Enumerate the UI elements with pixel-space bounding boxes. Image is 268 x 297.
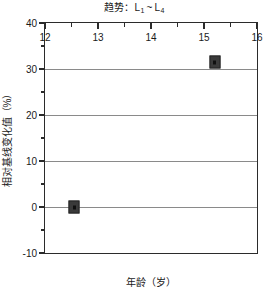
x-tick xyxy=(44,23,45,29)
x-tick-minor xyxy=(230,23,231,27)
x-tick-minor xyxy=(71,23,72,27)
x-tick xyxy=(150,23,151,29)
y-tick-minor xyxy=(41,91,45,92)
y-tick-label: 40 xyxy=(26,18,37,29)
y-tick-label: -10 xyxy=(23,248,37,259)
data-point xyxy=(209,56,220,69)
data-point xyxy=(69,201,80,214)
y-tick-label: 10 xyxy=(26,156,37,167)
chart-figure: 趋势：L1~L4 -10010203040 1213141516 相对基线变化值… xyxy=(0,0,268,297)
y-tick-minor xyxy=(41,229,45,230)
x-axis-title: 年龄（岁） xyxy=(44,277,258,289)
y-tick xyxy=(39,114,45,115)
y-tick xyxy=(39,252,45,253)
y-tick-label: 0 xyxy=(31,202,37,213)
y-tick xyxy=(39,206,45,207)
x-tick xyxy=(256,23,257,29)
y-axis-title: 相对基线变化值（%） xyxy=(1,22,15,254)
chart-title-tilde: ~ xyxy=(144,2,154,13)
y-tick-minor xyxy=(41,183,45,184)
x-tick-label: 13 xyxy=(92,32,103,43)
chart-title: 趋势：L1~L4 xyxy=(0,1,268,17)
x-tick xyxy=(203,23,204,29)
y-tick xyxy=(39,160,45,161)
chart-title-subscript-2: 4 xyxy=(160,7,164,14)
x-tick xyxy=(97,23,98,29)
x-tick-label: 16 xyxy=(251,32,262,43)
plot-area: -10010203040 1213141516 xyxy=(44,22,258,254)
x-tick-label: 12 xyxy=(39,32,50,43)
x-tick-label: 15 xyxy=(198,32,209,43)
y-tick-label: 30 xyxy=(26,64,37,75)
y-tick-minor xyxy=(41,137,45,138)
gridline xyxy=(45,69,257,70)
x-tick-minor xyxy=(177,23,178,27)
y-tick xyxy=(39,68,45,69)
x-tick-minor xyxy=(124,23,125,27)
chart-title-prefix: 趋势：L xyxy=(104,2,141,13)
x-tick-label: 14 xyxy=(145,32,156,43)
gridline xyxy=(45,115,257,116)
gridline xyxy=(45,161,257,162)
y-axis-title-text: 相对基线变化值（%） xyxy=(2,89,14,188)
y-tick-label: 20 xyxy=(26,110,37,121)
y-tick-minor xyxy=(41,45,45,46)
